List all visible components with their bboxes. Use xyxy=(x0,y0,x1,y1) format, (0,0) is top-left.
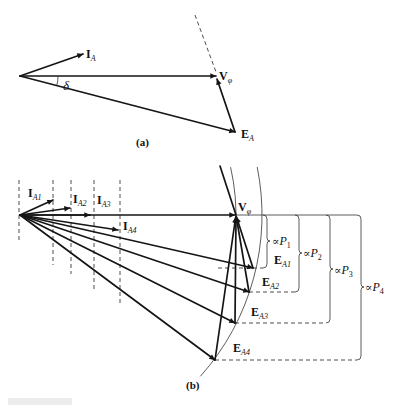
current-label-3: IA3 xyxy=(97,193,111,209)
panel-a: δ IA Vφ EA (a) xyxy=(20,15,254,149)
reactance-drop-arrow-3 xyxy=(235,217,236,323)
brace-p4 xyxy=(357,215,364,360)
panel-a-current-label: IA xyxy=(86,47,96,63)
current-label-4: IA4 xyxy=(123,219,137,235)
brace-p3 xyxy=(326,215,333,323)
panel-a-emf-label: EA xyxy=(241,127,254,143)
panel-b-caption: (b) xyxy=(186,379,200,392)
reactance-direction-line xyxy=(220,166,236,215)
current-label-2: IA2 xyxy=(73,192,87,208)
power-label-4: ∝P4 xyxy=(365,280,384,296)
emf-label-3: EA3 xyxy=(251,305,268,321)
power-label-1: ∝P1 xyxy=(272,234,291,250)
emf-label-2: EA2 xyxy=(262,275,279,291)
phasor-diagram-figure: δ IA Vφ EA (a) xyxy=(0,0,398,405)
panel-b-voltage-label: Vφ xyxy=(238,200,252,216)
panel-a-caption: (a) xyxy=(136,136,149,149)
panel-a-current-phasor-arrow xyxy=(20,54,83,76)
panel-a-delta-angle-arc xyxy=(57,76,58,86)
emf-label-1: EA1 xyxy=(274,253,291,269)
reactance-drop-arrow-4 xyxy=(215,217,236,360)
panel-a-reactance-drop-arrow xyxy=(217,79,235,132)
power-label-3: ∝P3 xyxy=(334,263,353,279)
brace-p2 xyxy=(295,215,302,292)
power-label-2: ∝P2 xyxy=(303,246,322,262)
panel-a-delta-label: δ xyxy=(63,78,70,93)
panel-a-emf-phasor-arrow xyxy=(20,76,235,132)
current-label-1: IA1 xyxy=(28,186,42,202)
cropped-caption-bar xyxy=(8,398,72,405)
emf-label-4: EA4 xyxy=(233,341,250,357)
panel-a-dashed-locus-line xyxy=(195,15,216,72)
reactance-drop-arrow-1 xyxy=(237,217,254,268)
brace-p1 xyxy=(263,215,270,268)
panel-a-voltage-label: Vφ xyxy=(219,69,233,85)
reactance-drop-arrow-2 xyxy=(236,217,249,292)
panel-b: Vφ IA1 IA2 IA3 IA4 EA1 EA2 EA3 EA4 ∝P1 xyxy=(19,166,384,392)
